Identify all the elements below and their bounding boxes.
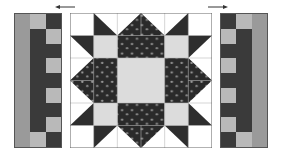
panel-column	[46, 14, 61, 147]
left-border-panel	[14, 13, 62, 148]
fabric-segment-dark	[236, 58, 251, 73]
fabric-segment-medium	[15, 88, 30, 103]
center-square	[117, 58, 164, 103]
fabric-segment-medium	[252, 58, 267, 73]
arrow-right-icon	[208, 4, 228, 10]
fabric-segment-dark	[46, 44, 61, 59]
fabric-segment-dark	[46, 103, 61, 118]
fabric-segment-dark	[236, 117, 251, 132]
fabric-segment-dark	[46, 14, 61, 29]
fabric-segment-dark	[46, 73, 61, 88]
fabric-segment-dark	[221, 14, 236, 29]
fabric-segment-light	[46, 117, 61, 132]
fabric-segment-light	[30, 132, 45, 147]
fabric-segment-dark	[30, 44, 45, 59]
fabric-segment-light	[221, 88, 236, 103]
panel-column	[15, 14, 30, 147]
fabric-segment-dark	[236, 73, 251, 88]
fabric-segment-medium	[252, 29, 267, 44]
fabric-segment-medium	[252, 44, 267, 59]
fabric-segment-dark	[221, 44, 236, 59]
fabric-segment-dark	[236, 44, 251, 59]
panel-column	[236, 14, 251, 147]
fabric-segment-medium	[252, 132, 267, 147]
fabric-segment-dark	[30, 58, 45, 73]
fabric-segment-light	[236, 14, 251, 29]
light-square	[94, 36, 118, 59]
fabric-segment-medium	[15, 58, 30, 73]
panel-column	[221, 14, 236, 147]
fabric-segment-medium	[252, 73, 267, 88]
light-square	[165, 103, 189, 126]
fabric-segment-medium	[15, 117, 30, 132]
light-square	[94, 103, 118, 126]
fabric-segment-medium	[15, 44, 30, 59]
panel-column	[252, 14, 267, 147]
fabric-segment-light	[221, 58, 236, 73]
fabric-segment-dark	[236, 103, 251, 118]
fabric-segment-dark	[236, 88, 251, 103]
fabric-segment-light	[221, 29, 236, 44]
star-quilt-block	[70, 13, 212, 148]
fabric-segment-dark	[236, 29, 251, 44]
fabric-segment-dark	[30, 88, 45, 103]
fabric-segment-dark	[30, 73, 45, 88]
light-square	[165, 36, 189, 59]
panel-column	[30, 14, 45, 147]
fabric-segment-dark	[30, 117, 45, 132]
fabric-segment-dark	[30, 29, 45, 44]
fabric-segment-light	[30, 14, 45, 29]
fabric-segment-medium	[15, 103, 30, 118]
fabric-segment-medium	[15, 132, 30, 147]
fabric-segment-light	[46, 88, 61, 103]
fabric-segment-light	[221, 117, 236, 132]
fabric-segment-medium	[252, 88, 267, 103]
fabric-segment-dark	[221, 103, 236, 118]
fabric-segment-light	[46, 29, 61, 44]
fabric-segment-medium	[252, 103, 267, 118]
fabric-segment-medium	[252, 117, 267, 132]
fabric-segment-light	[46, 58, 61, 73]
fabric-segment-medium	[15, 14, 30, 29]
fabric-segment-medium	[15, 73, 30, 88]
fabric-segment-dark	[221, 73, 236, 88]
right-border-panel	[220, 13, 268, 148]
fabric-segment-medium	[15, 29, 30, 44]
fabric-segment-dark	[30, 103, 45, 118]
fabric-segment-dark	[221, 132, 236, 147]
fabric-segment-medium	[252, 14, 267, 29]
arrow-left-icon	[55, 4, 75, 10]
fabric-segment-dark	[46, 132, 61, 147]
fabric-segment-light	[236, 132, 251, 147]
